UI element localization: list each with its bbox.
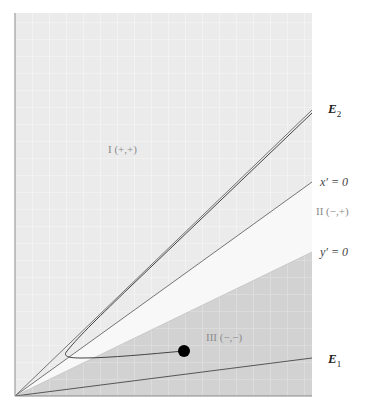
region-II-label: II (−,+) xyxy=(316,205,349,217)
E2-label-sub: 2 xyxy=(337,109,342,119)
E1-label: E1 xyxy=(328,351,341,369)
x-nullcline-label: x′ = 0 xyxy=(320,175,348,190)
region-III-label: III (−,−) xyxy=(206,331,242,343)
E2-label: E2 xyxy=(328,101,341,119)
y-nullcline-label: y′ = 0 xyxy=(320,245,348,260)
E1-label-sub: 1 xyxy=(337,359,342,369)
E2-label-main: E xyxy=(328,101,337,116)
initial-point-dot xyxy=(178,345,190,357)
region-I-label: I (+,+) xyxy=(108,143,137,155)
E1-label-main: E xyxy=(328,351,337,366)
phase-plane-diagram xyxy=(0,0,366,412)
